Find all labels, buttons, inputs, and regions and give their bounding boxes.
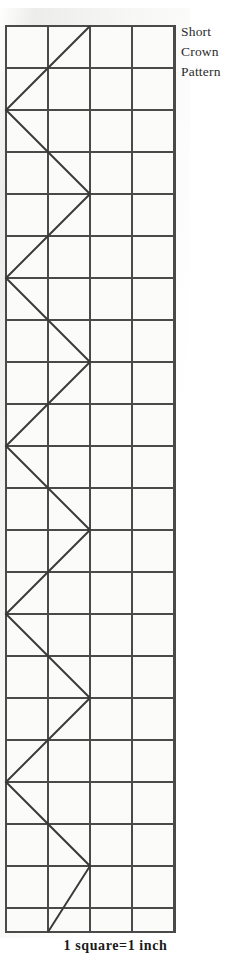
pattern-title-line-2: Crown <box>181 42 231 62</box>
pattern-title-line-1: Short <box>181 22 231 42</box>
pattern-title: Short Crown Pattern <box>181 22 231 82</box>
scale-caption: 1 square=1 inch <box>0 938 231 954</box>
pattern-title-line-3: Pattern <box>181 62 231 82</box>
short-crown-pattern-figure <box>0 0 231 960</box>
pattern-page: Short Crown Pattern 1 square=1 inch <box>0 0 231 960</box>
